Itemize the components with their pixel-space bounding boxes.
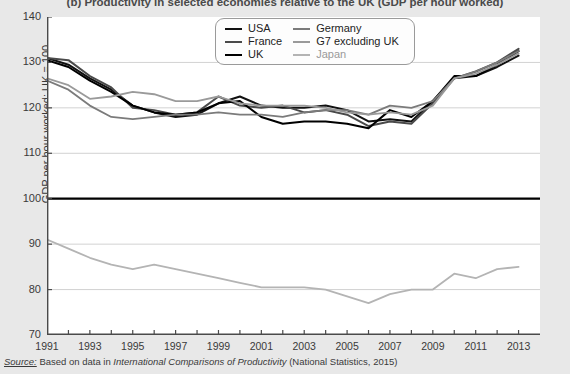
- source-italic-title: International Comparisons of Productivit…: [113, 356, 286, 367]
- y-tick-label: 80: [11, 283, 41, 295]
- legend-swatch-cell: [222, 22, 245, 35]
- legend-swatch-cell: [222, 48, 245, 61]
- legend-row: UKJapan: [222, 48, 407, 61]
- x-tick-label: 2007: [378, 340, 401, 352]
- legend-label-germany[interactable]: Germany: [313, 22, 407, 35]
- y-tick-label: 140: [11, 10, 41, 22]
- x-tick-label: 2013: [507, 340, 530, 352]
- y-tick-label: 130: [11, 55, 41, 67]
- y-tick-label: 120: [11, 101, 41, 113]
- x-tick-label: 1991: [35, 340, 58, 352]
- x-tick-label: 1999: [207, 340, 230, 352]
- x-tick-label: 1995: [121, 340, 144, 352]
- y-tick-label: 110: [11, 146, 41, 158]
- figure-title: (b) Productivity in selected economies r…: [0, 0, 570, 9]
- legend-row: FranceG7 excluding UK: [222, 35, 407, 48]
- chart-legend[interactable]: USAGermanyFranceG7 excluding UKUKJapan: [215, 18, 415, 65]
- legend-swatch-cell: [290, 22, 313, 35]
- legend-label-usa[interactable]: USA: [245, 22, 290, 35]
- x-axis-tick-labels: 1991199319951997199920012003200520072009…: [47, 338, 540, 354]
- x-tick-label: 2003: [293, 340, 316, 352]
- y-tick-label: 70: [11, 328, 41, 340]
- x-tick-label: 1993: [78, 340, 101, 352]
- source-text: Based on data in: [39, 356, 110, 367]
- legend-line-swatch: [293, 54, 310, 56]
- source-tail: (National Statistics, 2015): [289, 356, 397, 367]
- legend-row: USAGermany: [222, 22, 407, 35]
- y-tick-label: 100: [11, 192, 41, 204]
- figure-panel: (b) Productivity in selected economies r…: [0, 0, 570, 374]
- legend-line-swatch: [225, 28, 242, 30]
- y-axis-tick-labels: 708090100110120130140: [8, 17, 41, 335]
- x-tick-label: 1997: [164, 340, 187, 352]
- x-tick-label: 2009: [421, 340, 444, 352]
- x-tick-label: 2011: [464, 340, 487, 352]
- legend-label-japan[interactable]: Japan: [313, 48, 407, 61]
- source-note: Source: Based on data in International C…: [4, 356, 564, 367]
- legend-label-france[interactable]: France: [245, 35, 290, 48]
- x-tick-label: 2001: [250, 340, 273, 352]
- legend-swatch-cell: [222, 35, 245, 48]
- legend-swatch-cell: [290, 48, 313, 61]
- legend-label-g7-excluding-uk[interactable]: G7 excluding UK: [313, 35, 407, 48]
- legend-line-swatch: [225, 54, 242, 56]
- source-lead: Source:: [4, 356, 37, 367]
- legend-table: USAGermanyFranceG7 excluding UKUKJapan: [222, 22, 407, 61]
- legend-line-swatch: [293, 28, 310, 30]
- legend-line-swatch: [293, 41, 310, 43]
- y-tick-label: 90: [11, 237, 41, 249]
- legend-label-uk[interactable]: UK: [245, 48, 290, 61]
- x-tick-label: 2005: [335, 340, 358, 352]
- legend-swatch-cell: [290, 35, 313, 48]
- legend-line-swatch: [225, 41, 242, 43]
